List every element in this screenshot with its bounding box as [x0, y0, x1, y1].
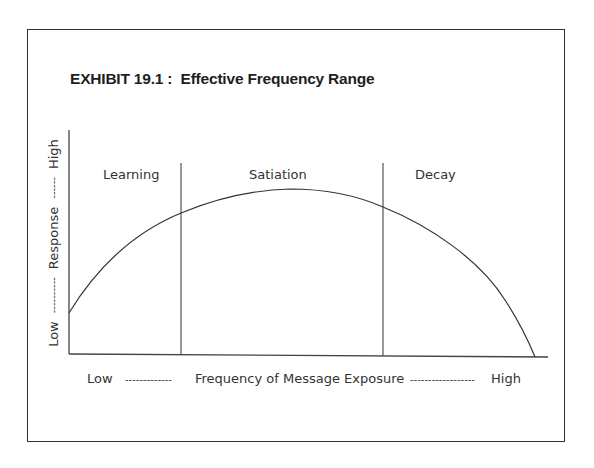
region-label-satiation: Satiation	[249, 167, 307, 182]
y-axis-label-group: Low ---------- Response ------ High	[43, 132, 63, 354]
response-curve	[69, 189, 535, 357]
x-axis-title: Frequency of Message Exposure	[195, 371, 404, 386]
x-axis-high-label: High	[491, 371, 521, 386]
y-axis-dashes-low: ----------	[48, 277, 59, 313]
region-label-decay: Decay	[415, 167, 456, 182]
y-axis-dashes-high: ------	[48, 177, 59, 199]
y-axis-low-label: Low	[46, 321, 61, 347]
x-axis-low-label: Low	[87, 371, 113, 386]
y-axis-title: Response	[46, 207, 61, 269]
x-axis-line	[69, 354, 548, 357]
region-label-learning: Learning	[103, 167, 159, 182]
x-axis-dashes-right: ------------------	[410, 374, 475, 385]
x-axis-dashes-left: -------------	[125, 374, 172, 385]
y-axis-high-label: High	[46, 139, 61, 169]
response-chart	[0, 0, 594, 468]
